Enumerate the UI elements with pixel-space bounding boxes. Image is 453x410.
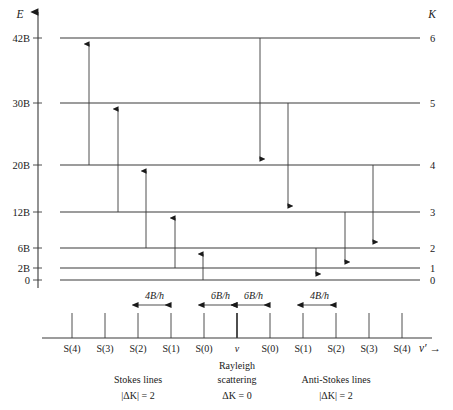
spectrum-label-7: S(1) [294, 343, 311, 355]
spectrum-label-6: S(0) [261, 343, 278, 355]
caption-rayleigh-title-1: Rayleigh [219, 360, 255, 371]
spacing-label-2: 6B/h [211, 290, 230, 301]
energy-axis [33, 12, 42, 288]
k-label-2: 2 [430, 243, 435, 254]
spacing-label-3: 6B/h [244, 290, 263, 301]
k-axis-label: K [427, 8, 437, 20]
stokes-transition-arrows [89, 44, 203, 280]
spectrum-label-5: ν [235, 343, 240, 354]
energy-tick-label-30b: 30B [12, 98, 30, 109]
spectrum-label-3: S(1) [162, 343, 179, 355]
caption-rayleigh-rule: ΔK = 0 [222, 390, 251, 401]
energy-levels [60, 38, 420, 280]
energy-axis-label: E [15, 8, 23, 20]
energy-level-diagram: E 42B 30B 20B 12B 6B 2B 0 K 6 5 4 3 2 1 … [0, 0, 453, 410]
frequency-axis-label: ν′ → [419, 342, 441, 354]
spectrum-label-0: S(4) [63, 343, 80, 355]
spectrum-label-1: S(3) [96, 343, 113, 355]
caption-stokes-title: Stokes lines [114, 374, 162, 385]
spectrum-label-10: S(4) [393, 343, 410, 355]
figure-root: E 42B 30B 20B 12B 6B 2B 0 K 6 5 4 3 2 1 … [0, 0, 453, 410]
caption-antistokes-title: Anti-Stokes lines [301, 374, 370, 385]
energy-tick-label-0: 0 [25, 275, 30, 286]
k-label-1: 1 [430, 263, 435, 274]
k-label-4: 4 [430, 160, 436, 171]
spectrum-label-8: S(2) [327, 343, 344, 355]
k-label-6: 6 [430, 33, 435, 44]
spectrum-label-4: S(0) [195, 343, 212, 355]
energy-tick-label-42b: 42B [12, 33, 30, 44]
energy-tick-label-6b: 6B [18, 243, 30, 254]
energy-tick-label-20b: 20B [12, 160, 30, 171]
energy-tick-label-12b: 12B [12, 207, 30, 218]
spectrum-label-9: S(3) [360, 343, 377, 355]
k-label-5: 5 [430, 98, 435, 109]
energy-tick-label-2b: 2B [18, 263, 30, 274]
spectrum-axis [42, 313, 432, 338]
caption-antistokes-rule: |ΔK| = 2 [319, 390, 352, 401]
spacing-label-1: 4B/h [145, 290, 164, 301]
k-label-0: 0 [430, 275, 435, 286]
caption-rayleigh-title-2: scattering [218, 374, 257, 385]
k-label-3: 3 [430, 207, 435, 218]
spacing-label-4: 4B/h [310, 290, 329, 301]
caption-stokes-rule: |ΔK| = 2 [121, 390, 154, 401]
spectrum-label-2: S(2) [129, 343, 146, 355]
antistokes-transition-arrows [260, 38, 373, 274]
